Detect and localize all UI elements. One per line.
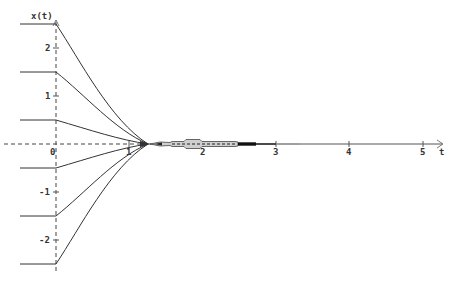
x-tick-label-2: 2	[200, 147, 205, 157]
x-tick-label-5: 5	[420, 147, 425, 157]
trajectory-plot: x(t) t 2 1 -1 -2 0 1 2 3 4 5	[0, 0, 460, 287]
trajectory-neg1.5	[20, 144, 148, 216]
trajectory-2.5	[20, 24, 148, 144]
trajectory-neg2.5	[20, 144, 148, 264]
x-axis-title: t	[439, 147, 444, 157]
y-axis-title: x(t)	[31, 11, 53, 21]
y-tick-label-1: 1	[45, 91, 50, 101]
origin-label: 0	[50, 147, 55, 157]
y-tick-label-2: 2	[45, 43, 50, 53]
x-tick-label-3: 3	[273, 147, 278, 157]
y-tick-label-neg1: -1	[39, 187, 50, 197]
y-tick-label-neg2: -2	[39, 235, 50, 245]
trajectory-1.5	[20, 72, 148, 144]
trajectory-0.5	[20, 120, 148, 144]
x-tick-label-4: 4	[346, 147, 352, 157]
